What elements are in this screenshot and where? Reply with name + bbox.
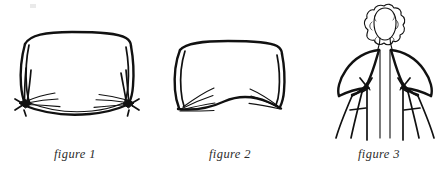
- figure-1-artwork: [0, 0, 150, 145]
- curly-hair: [364, 4, 404, 44]
- figure-panel-3: figure 3: [310, 0, 448, 177]
- figure-3-caption: figure 3: [310, 147, 448, 162]
- figure-2-artwork: [150, 0, 310, 145]
- left-hanging-tails: [336, 90, 367, 140]
- figure-panel-1: figure 1: [0, 0, 150, 177]
- figure-1-caption: figure 1: [0, 147, 150, 162]
- right-hanging-tails: [403, 90, 434, 140]
- figure-3-artwork: [310, 0, 448, 145]
- right-gather-fan: [249, 89, 280, 109]
- diagram-page: figure 1: [0, 0, 448, 177]
- figure-2-caption: figure 2: [150, 147, 310, 162]
- figure-panel-2: figure 2: [150, 0, 310, 177]
